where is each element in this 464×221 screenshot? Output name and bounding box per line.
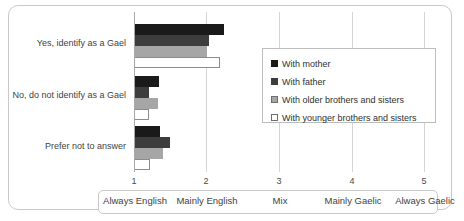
legend-label: With mother xyxy=(282,59,331,69)
bar-older-siblings xyxy=(134,98,158,109)
bar-younger-siblings xyxy=(134,57,220,68)
legend-item-father: With father xyxy=(271,73,435,90)
legend-swatch-icon xyxy=(271,60,278,67)
bar-mother xyxy=(134,76,159,87)
axis-label-mainly-english: Mainly English xyxy=(165,195,249,206)
tick-number: 1 xyxy=(122,176,146,186)
axis-label-mix: Mix xyxy=(238,195,322,206)
legend-label: With older brothers and sisters xyxy=(282,95,404,105)
legend-swatch-icon xyxy=(271,78,278,85)
axis-label-always-gaelic: Always Gaelic xyxy=(383,195,464,206)
category-axis: Yes, identify as a Gael No, do not ident… xyxy=(0,0,130,221)
tick-number: 3 xyxy=(267,176,291,186)
bar-mother xyxy=(134,24,224,35)
value-axis-line xyxy=(134,12,135,172)
bar-father xyxy=(134,137,170,148)
bar-older-siblings xyxy=(134,148,163,159)
category-label: Prefer not to answer xyxy=(45,141,126,151)
category-label: Yes, identify as a Gael xyxy=(37,38,126,48)
legend-swatch-icon xyxy=(271,96,278,103)
legend-item-older-siblings: With older brothers and sisters xyxy=(271,91,435,108)
bar-younger-siblings xyxy=(134,159,150,170)
bar-older-siblings xyxy=(134,46,207,57)
bar-mother xyxy=(134,126,160,137)
bar-father xyxy=(134,87,149,98)
legend-item-younger-siblings: With younger brothers and sisters xyxy=(271,109,435,126)
tick-number: 2 xyxy=(194,176,218,186)
legend-label: With younger brothers and sisters xyxy=(282,113,417,123)
tick-number: 4 xyxy=(340,176,364,186)
legend-item-mother: With mother xyxy=(271,55,435,72)
chart-figure: Yes, identify as a Gael No, do not ident… xyxy=(0,0,464,221)
bar-father xyxy=(134,35,209,46)
legend-label: With father xyxy=(282,77,326,87)
chart-legend: With mother With father With older broth… xyxy=(262,48,436,123)
tick-number: 5 xyxy=(412,176,436,186)
category-label: No, do not identify as a Gael xyxy=(12,90,126,100)
bar-younger-siblings xyxy=(134,109,149,120)
legend-swatch-icon xyxy=(271,114,278,121)
value-axis-label-strip: Always English Mainly English Mix Mainly… xyxy=(98,190,438,214)
